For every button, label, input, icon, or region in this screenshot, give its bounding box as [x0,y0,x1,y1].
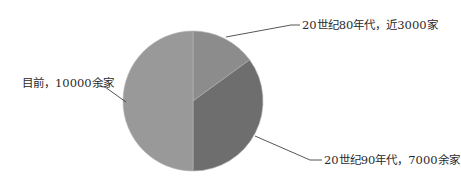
label-now: 目前，10000余家 [22,76,114,90]
pie-slices [123,31,263,171]
pie-slice [123,31,193,171]
leader-line-80s [226,25,300,37]
label-80s: 20世纪80年代，近3000家 [302,18,438,32]
leader-line-90s [255,136,322,160]
label-90s: 20世纪90年代，7000余家 [324,153,460,167]
